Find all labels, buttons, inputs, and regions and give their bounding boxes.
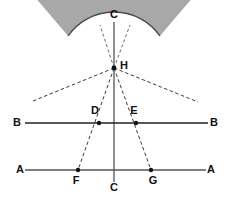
label-a-right: A (207, 163, 215, 175)
diagram-canvas: C H B B D E A A F G C (0, 0, 231, 198)
label-c-top: C (110, 8, 118, 20)
dashed-ray-up-left (100, 25, 114, 68)
label-b-left: B (13, 116, 21, 128)
label-e: E (130, 104, 137, 116)
label-a-left: A (16, 163, 24, 175)
point-f (76, 168, 80, 172)
point-e (134, 121, 138, 125)
label-d: D (91, 104, 99, 116)
geometry-figure: C H B B D E A A F G C (0, 0, 231, 198)
label-g: G (149, 174, 158, 186)
point-h (112, 66, 117, 71)
label-h: H (120, 59, 128, 71)
point-d (97, 121, 101, 125)
label-c-bottom: C (110, 181, 118, 193)
dashed-ray-h-to-f (78, 68, 114, 170)
dashed-ray-h-to-b-left (33, 68, 114, 101)
dashed-ray-h-to-b-right (114, 68, 198, 102)
label-f: F (73, 174, 80, 186)
point-g (149, 168, 153, 172)
label-b-right: B (210, 116, 218, 128)
dashed-ray-h-to-g (114, 68, 151, 170)
